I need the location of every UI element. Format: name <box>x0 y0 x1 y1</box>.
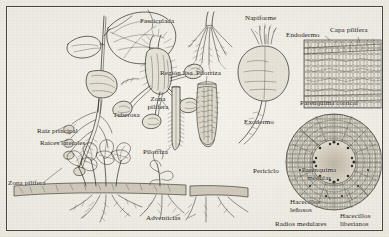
illustration-page: .ink{fill:none;stroke:#2a2720;stroke-wid… <box>0 0 389 237</box>
plate-border <box>6 6 383 231</box>
